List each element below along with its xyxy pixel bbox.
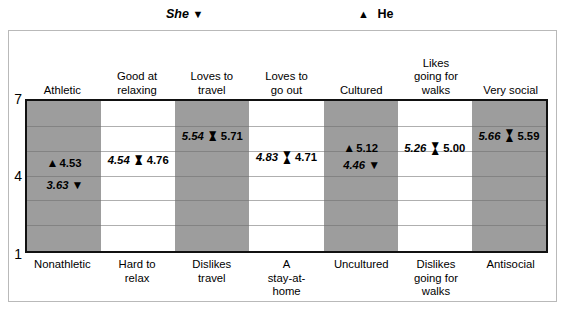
- data-point-pair: 5.66▼▲5.59: [478, 129, 539, 142]
- legend-she-label: She: [166, 7, 189, 21]
- bottom-category-label: Dislikestravel: [174, 256, 249, 302]
- label-line: Dislikes: [399, 258, 474, 272]
- hourglass-marker-icon: ▼▲: [429, 141, 440, 154]
- label-line: walks: [414, 84, 458, 98]
- data-value-he: 4.53: [60, 157, 82, 169]
- y-axis-tick-mid: 4: [4, 169, 22, 183]
- data-value-he: 5.12: [356, 142, 378, 154]
- triangle-down-icon: ▼: [72, 179, 82, 191]
- data-point-pair: 4.54▼▲4.76: [108, 153, 169, 166]
- top-category-label: Loves totravel: [174, 56, 249, 98]
- label-line: Athletic: [44, 84, 81, 98]
- data-point-pair: 5.26▼▲5.00: [404, 141, 465, 154]
- data-value-he: 4.71: [295, 151, 317, 163]
- data-point-she: 4.46▼: [343, 159, 378, 171]
- triangle-up-icon: ▲: [207, 130, 218, 142]
- label-line: Dislikes: [174, 258, 249, 272]
- triangle-up-icon: ▲: [429, 144, 440, 156]
- label-line: Cultured: [340, 84, 383, 98]
- top-category-label: Athletic: [25, 56, 100, 98]
- label-line: relaxing: [117, 84, 157, 98]
- label-line: going for: [414, 70, 458, 84]
- data-value-she: 5.66: [478, 129, 500, 141]
- data-value-he: 5.71: [221, 129, 243, 141]
- plot-area: ▲4.533.63▼4.54▼▲4.765.54▼▲5.714.83▼▲4.71…: [25, 99, 548, 253]
- data-value-he: 5.59: [517, 129, 539, 141]
- triangle-up-icon: ▲: [358, 4, 369, 24]
- data-point-pair: 4.83▼▲4.71: [256, 150, 317, 163]
- label-line: Very social: [483, 84, 538, 98]
- top-category-label: Very social: [473, 56, 548, 98]
- label-line: relax: [100, 272, 175, 286]
- label-line: walks: [399, 285, 474, 299]
- bottom-category-label: Nonathletic: [25, 256, 100, 302]
- label-line: Loves to: [190, 70, 233, 84]
- label-line: Good at: [117, 70, 157, 84]
- top-category-labels: AthleticGood atrelaxingLoves totravelLov…: [25, 56, 548, 98]
- label-line: Likes: [414, 57, 458, 71]
- data-point-pair: 5.54▼▲5.71: [182, 129, 243, 142]
- triangle-up-icon: ▲: [133, 155, 144, 167]
- label-line: travel: [190, 84, 233, 98]
- triangle-up-icon: ▲: [503, 132, 514, 144]
- chart-legend: She ▼ ▲ He: [0, 4, 567, 28]
- data-value-he: 5.00: [443, 142, 465, 154]
- legend-he-label: He: [377, 7, 393, 21]
- data-markers: ▲4.533.63▼4.54▼▲4.765.54▼▲5.714.83▼▲4.71…: [27, 101, 546, 251]
- triangle-down-icon: ▼: [368, 159, 378, 171]
- bottom-category-label: Antisocial: [473, 256, 548, 302]
- label-line: Nonathletic: [25, 258, 100, 272]
- label-line: Loves to: [265, 70, 308, 84]
- legend-item-she: She ▼: [166, 4, 203, 24]
- label-line: Uncultured: [324, 258, 399, 272]
- data-point-he: ▲5.12: [343, 142, 378, 154]
- diamond-marker-icon: ▼▲: [207, 129, 218, 142]
- hourglass-marker-icon: ▼▲: [503, 129, 514, 142]
- triangle-down-icon: ▼: [192, 4, 203, 24]
- bottom-category-label: Uncultured: [324, 256, 399, 302]
- data-value-she: 4.83: [256, 151, 278, 163]
- data-value-she: 5.54: [182, 129, 204, 141]
- bottom-category-label: Astay-at-home: [249, 256, 324, 302]
- legend-item-he: ▲ He: [358, 4, 393, 24]
- label-line: stay-at-: [249, 272, 324, 286]
- bottom-category-labels: NonathleticHard torelaxDislikestravelAst…: [25, 256, 548, 302]
- data-point-she: 3.63▼: [47, 179, 82, 191]
- label-line: go out: [265, 84, 308, 98]
- data-value-she: 4.54: [108, 154, 130, 166]
- hourglass-marker-icon: ▼▲: [281, 150, 292, 163]
- triangle-up-icon: ▲: [47, 157, 57, 169]
- y-axis-tick-bottom: 1: [4, 247, 22, 261]
- triangle-up-icon: ▲: [343, 142, 353, 154]
- bottom-category-label: Dislikesgoing forwalks: [399, 256, 474, 302]
- diamond-marker-icon: ▼▲: [133, 153, 144, 166]
- label-line: travel: [174, 272, 249, 286]
- label-line: A: [249, 258, 324, 272]
- label-line: Antisocial: [473, 258, 548, 272]
- data-point-he: ▲4.53: [47, 157, 82, 169]
- label-line: Hard to: [100, 258, 175, 272]
- data-value-he: 4.76: [147, 154, 169, 166]
- data-value-she: 4.46: [343, 159, 365, 171]
- label-line: going for: [399, 272, 474, 286]
- top-category-label: Good atrelaxing: [100, 56, 175, 98]
- top-category-label: Likesgoing forwalks: [399, 56, 474, 98]
- data-value-she: 3.63: [47, 179, 69, 191]
- bottom-category-label: Hard torelax: [100, 256, 175, 302]
- top-category-label: Loves togo out: [249, 56, 324, 98]
- y-axis-tick-top: 7: [4, 92, 22, 106]
- top-category-label: Cultured: [324, 56, 399, 98]
- label-line: home: [249, 285, 324, 299]
- data-value-she: 5.26: [404, 142, 426, 154]
- triangle-up-icon: ▲: [281, 153, 292, 165]
